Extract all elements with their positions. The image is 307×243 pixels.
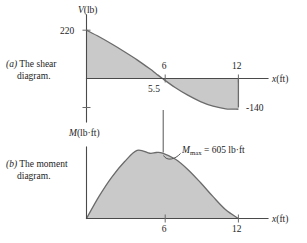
- shear-ylabel-minus140: -140: [246, 103, 264, 113]
- moment-xlabel-6: 6: [162, 224, 167, 234]
- moment-diagram-panel: M(lb·ft) x(ft) 6 12 Mmax = 605 lb·ft: [68, 110, 288, 234]
- shear-xlabel-6: 6: [162, 61, 167, 71]
- diagrams-svg: V(lb) x(ft) 220 -140 6 12 5.5: [0, 0, 307, 243]
- shear-diagram-panel: V(lb) x(ft) 220 -140 6 12 5.5: [60, 5, 288, 122]
- figure-container: (a) The shear diagram. (b) The moment di…: [0, 0, 307, 243]
- moment-x-axis-label: x(ft): [271, 214, 288, 225]
- shear-xlabel-12: 12: [232, 61, 242, 71]
- shear-y-axis-label-unit: (lb): [84, 5, 98, 16]
- shear-x-axis-label-unit: (ft): [276, 74, 288, 85]
- moment-y-axis-label-unit: (lb·ft): [77, 128, 100, 139]
- moment-area-fill: [87, 150, 239, 218]
- mmax-value: 605 lb·ft: [212, 145, 245, 155]
- mmax-subscript: max: [190, 149, 202, 156]
- moment-y-axis-label: M(lb·ft): [68, 128, 100, 139]
- shear-ylabel-220: 220: [60, 26, 75, 36]
- mmax-annotation: Mmax = 605 lb·ft: [181, 145, 245, 156]
- moment-x-axis-label-unit: (ft): [276, 214, 288, 225]
- moment-xlabel-12: 12: [232, 224, 242, 234]
- shear-zero-crossing-label: 5.5: [148, 84, 160, 94]
- shear-x-axis-label: x(ft): [271, 74, 288, 85]
- shear-y-axis-label: V(lb): [78, 5, 98, 16]
